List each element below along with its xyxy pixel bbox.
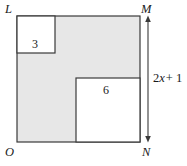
vertex-label-n: N xyxy=(142,146,150,159)
arrowhead-down xyxy=(145,136,151,143)
vertex-label-l: L xyxy=(5,3,12,16)
region-label-small-square: 3 xyxy=(32,38,38,50)
dimension-arrow xyxy=(145,16,151,143)
vertex-label-o: O xyxy=(5,146,14,159)
dimension-variable: x xyxy=(159,71,165,85)
vertex-label-m: M xyxy=(141,3,151,16)
region-label-large-rectangle: 6 xyxy=(103,84,109,96)
geometry-figure: L M N O 3 6 2x + 1 xyxy=(0,0,187,166)
arrowhead-up xyxy=(145,16,151,23)
dimension-label: 2x + 1 xyxy=(153,72,182,85)
dimension-constant: + 1 xyxy=(166,71,182,85)
